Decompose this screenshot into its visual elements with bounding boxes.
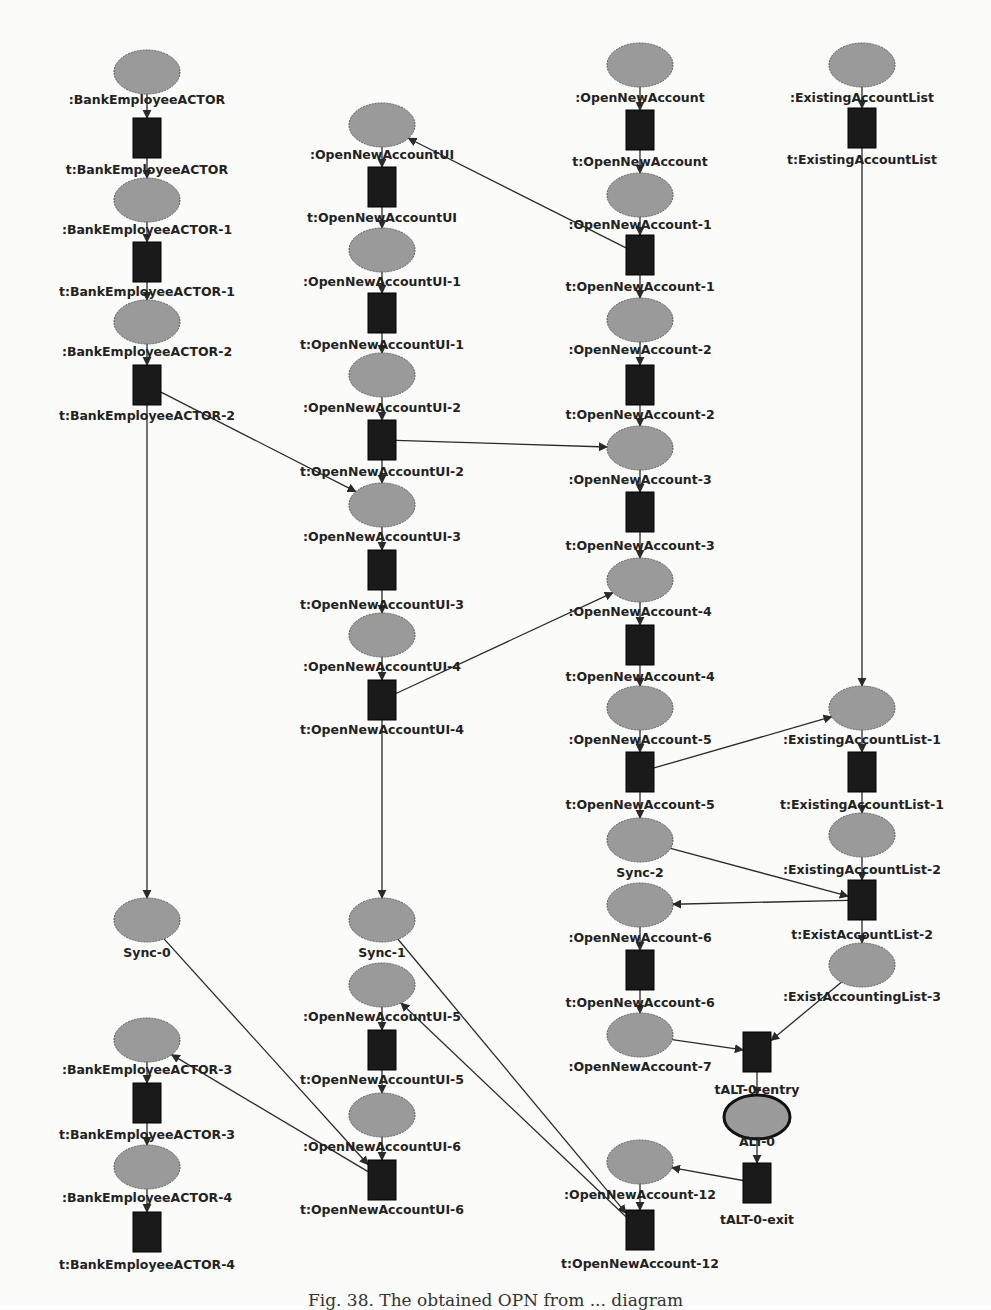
place-opennewaccountui-6[interactable]	[349, 1093, 415, 1137]
place-shape[interactable]	[607, 173, 673, 217]
transition-t-existingaccountlist-1[interactable]	[848, 752, 876, 792]
place-shape[interactable]	[114, 178, 180, 222]
transition-t-opennewaccount-12[interactable]	[626, 1210, 654, 1250]
place-shape[interactable]	[607, 883, 673, 927]
transition-t-opennewaccountui-5[interactable]	[368, 1030, 396, 1070]
place-sync-0[interactable]	[114, 898, 180, 942]
place-alt-0[interactable]	[724, 1095, 790, 1139]
transition-t-opennewaccount-6[interactable]	[626, 950, 654, 990]
place-opennewaccountui-4[interactable]	[349, 613, 415, 657]
transition-label: t:BankEmployeeACTOR-3	[59, 1127, 235, 1142]
transition-t-existaccountlist-2[interactable]	[848, 880, 876, 920]
transition-label: t:OpenNewAccount-12	[561, 1256, 719, 1271]
place-label: :BankEmployeeACTOR-4	[62, 1190, 232, 1205]
transition-talt-0-entry[interactable]	[743, 1032, 771, 1072]
transition-label: tALT-0-entry	[715, 1082, 800, 1097]
place-shape[interactable]	[607, 1013, 673, 1057]
place-shape[interactable]	[607, 1140, 673, 1184]
place-shape[interactable]	[607, 298, 673, 342]
place-label: :OpenNewAccountUI-5	[303, 1009, 461, 1024]
place-opennewaccount-5[interactable]	[607, 686, 673, 730]
place-shape[interactable]	[114, 898, 180, 942]
place-opennewaccount-12[interactable]	[607, 1140, 673, 1184]
place-label: :OpenNewAccount-4	[568, 604, 711, 619]
arc-t-ona12-to-p-ui5	[401, 1003, 626, 1217]
place-opennewaccountui[interactable]	[349, 103, 415, 147]
place-shape[interactable]	[349, 353, 415, 397]
place-sync-1[interactable]	[349, 898, 415, 942]
place-opennewaccount-4[interactable]	[607, 558, 673, 602]
transition-t-opennewaccount-2[interactable]	[626, 365, 654, 405]
place-existaccountinglist-3[interactable]	[829, 943, 895, 987]
place-opennewaccountui-3[interactable]	[349, 483, 415, 527]
transition-t-bankemployeeactor-4[interactable]	[133, 1212, 161, 1252]
place-existingaccountlist-2[interactable]	[829, 813, 895, 857]
transition-t-opennewaccountui-3[interactable]	[368, 550, 396, 590]
place-bankemployeeactor-3[interactable]	[114, 1018, 180, 1062]
place-label: :BankEmployeeACTOR-1	[62, 222, 232, 237]
place-opennewaccountui-5[interactable]	[349, 963, 415, 1007]
place-shape[interactable]	[349, 103, 415, 147]
place-shape[interactable]	[349, 483, 415, 527]
place-opennewaccount-7[interactable]	[607, 1013, 673, 1057]
place-shape[interactable]	[829, 813, 895, 857]
transition-t-opennewaccount-3[interactable]	[626, 492, 654, 532]
place-opennewaccount[interactable]	[607, 43, 673, 87]
place-opennewaccount-2[interactable]	[607, 298, 673, 342]
place-bankemployeeactor-1[interactable]	[114, 178, 180, 222]
transition-t-opennewaccount-1[interactable]	[626, 235, 654, 275]
place-shape[interactable]	[114, 1018, 180, 1062]
place-existingaccountlist-1[interactable]	[829, 686, 895, 730]
transition-t-bankemployeeactor-3[interactable]	[133, 1083, 161, 1123]
place-label: :BankEmployeeACTOR-3	[62, 1062, 232, 1077]
place-opennewaccount-3[interactable]	[607, 426, 673, 470]
arc-p-ona7-to-t-alt-entry	[672, 1040, 743, 1050]
place-shape[interactable]	[349, 963, 415, 1007]
place-opennewaccount-1[interactable]	[607, 173, 673, 217]
place-opennewaccountui-1[interactable]	[349, 228, 415, 272]
place-shape[interactable]	[607, 558, 673, 602]
transition-t-bankemployeeactor[interactable]	[133, 118, 161, 158]
transition-t-opennewaccountui-2[interactable]	[368, 420, 396, 460]
transition-t-opennewaccountui[interactable]	[368, 167, 396, 207]
place-opennewaccount-6[interactable]	[607, 883, 673, 927]
place-shape[interactable]	[829, 686, 895, 730]
place-label: :OpenNewAccount-2	[568, 342, 711, 357]
place-shape[interactable]	[114, 300, 180, 344]
transition-t-opennewaccountui-1[interactable]	[368, 293, 396, 333]
place-bankemployeeactor-2[interactable]	[114, 300, 180, 344]
transition-label: t:ExistingAccountList-1	[780, 797, 944, 812]
place-shape[interactable]	[724, 1095, 790, 1139]
place-shape[interactable]	[607, 426, 673, 470]
place-shape[interactable]	[114, 50, 180, 94]
transition-t-existingaccountlist[interactable]	[848, 108, 876, 148]
transition-t-opennewaccount-4[interactable]	[626, 625, 654, 665]
place-shape[interactable]	[607, 43, 673, 87]
place-shape[interactable]	[349, 1093, 415, 1137]
figure-caption: Fig. 38. The obtained OPN from ... diagr…	[0, 1290, 991, 1310]
transition-t-opennewaccount-5[interactable]	[626, 752, 654, 792]
place-bankemployeeactor-4[interactable]	[114, 1145, 180, 1189]
place-sync-2[interactable]	[607, 818, 673, 862]
place-shape[interactable]	[349, 898, 415, 942]
place-existingaccountlist[interactable]	[829, 43, 895, 87]
transition-talt-0-exit[interactable]	[743, 1163, 771, 1203]
transition-t-opennewaccount[interactable]	[626, 110, 654, 150]
transition-label: t:OpenNewAccount-6	[565, 995, 714, 1010]
transition-t-bankemployeeactor-1[interactable]	[133, 242, 161, 282]
place-shape[interactable]	[114, 1145, 180, 1189]
place-shape[interactable]	[349, 613, 415, 657]
place-shape[interactable]	[829, 943, 895, 987]
place-shape[interactable]	[829, 43, 895, 87]
place-bankemployeeactor[interactable]	[114, 50, 180, 94]
transition-t-opennewaccountui-4[interactable]	[368, 680, 396, 720]
place-shape[interactable]	[349, 228, 415, 272]
place-opennewaccountui-2[interactable]	[349, 353, 415, 397]
place-shape[interactable]	[607, 686, 673, 730]
transition-t-opennewaccountui-6[interactable]	[368, 1160, 396, 1200]
transition-t-bankemployeeactor-2[interactable]	[133, 365, 161, 405]
transition-label: t:OpenNewAccount-3	[565, 538, 714, 553]
place-shape[interactable]	[607, 818, 673, 862]
